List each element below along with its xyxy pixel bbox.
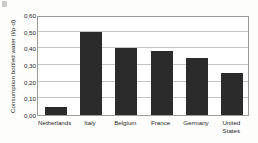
bar — [115, 48, 137, 116]
x-axis-tick-label-line: Germany — [178, 119, 213, 127]
y-axis-tick-labels: 0,600,500,400,300,200,100,00 — [12, 14, 36, 116]
x-axis-tick-label-line: Italy — [72, 119, 107, 127]
bar-series — [38, 17, 248, 115]
bar — [186, 58, 208, 115]
bar — [151, 51, 173, 115]
x-axis-tick-label: France — [143, 119, 178, 127]
bar — [80, 32, 102, 115]
x-axis-category-labels: NetherlandsItalyBelgiumFranceGermanyUnit… — [37, 119, 249, 143]
bar-slot — [144, 17, 179, 115]
scan-artifact — [2, 1, 7, 7]
chart-screenshot: Consumption bottled water (l/p·d) 0,600,… — [0, 0, 258, 143]
x-axis-tick-label: Italy — [72, 119, 107, 127]
y-axis-tick-label: 0,00 — [12, 112, 36, 119]
x-axis-tick-label: Netherlands — [37, 119, 72, 127]
bar-slot — [215, 17, 250, 115]
x-axis-tick-label-line: Belgium — [108, 119, 143, 127]
bar — [45, 107, 67, 115]
y-axis-tick-label: 0,60 — [12, 12, 36, 19]
x-axis-tick-label-line: States — [214, 127, 249, 135]
y-axis-tick-label: 0,40 — [12, 45, 36, 52]
x-axis-tick-label: UnitedStates — [214, 119, 249, 136]
y-axis-tick-label: 0,10 — [12, 95, 36, 102]
x-axis-tick-label-line: France — [143, 119, 178, 127]
bar-slot — [38, 17, 73, 115]
x-axis-tick-label: Germany — [178, 119, 213, 127]
bar-slot — [73, 17, 108, 115]
x-axis-tick-label: Belgium — [108, 119, 143, 127]
x-axis-tick-label-line: Netherlands — [37, 119, 72, 127]
y-axis-tick-label: 0,20 — [12, 78, 36, 85]
bar-slot — [109, 17, 144, 115]
bar-slot — [179, 17, 214, 115]
y-axis-tick-label: 0,30 — [12, 62, 36, 69]
plot-area — [37, 16, 249, 116]
bar — [221, 73, 243, 115]
x-axis-tick-label-line: United — [214, 119, 249, 127]
y-axis-tick-label: 0,50 — [12, 28, 36, 35]
